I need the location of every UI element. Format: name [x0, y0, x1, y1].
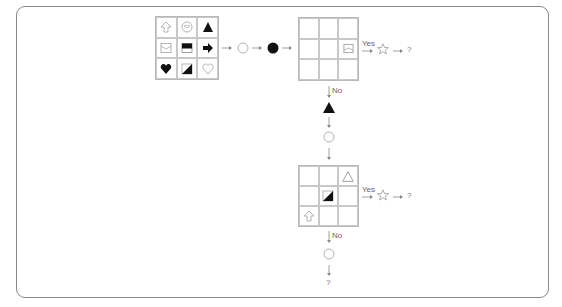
grid-cell	[319, 59, 339, 80]
result-question-mark: ?	[407, 45, 411, 54]
up-arrow-outline-icon	[160, 21, 172, 33]
grid-cell-triangle	[197, 17, 218, 38]
arrow-down-icon	[326, 265, 332, 277]
circle-hollow-icon	[237, 42, 249, 54]
circle-hollow-icon	[323, 248, 335, 260]
grid-cell	[299, 59, 319, 80]
grid-cell-triangle-outline	[338, 166, 358, 186]
grid-cell	[338, 206, 358, 226]
grid-cell-heart-outline	[197, 58, 218, 79]
grid-cell	[299, 39, 319, 60]
grid-2	[298, 165, 359, 227]
circle-hollow-icon	[323, 131, 335, 143]
grid-cell	[299, 18, 319, 39]
grid-cell-up-arrow	[299, 206, 319, 226]
arrow-right-icon	[222, 45, 233, 51]
yes-label: Yes	[362, 40, 375, 48]
grid-cell-clock	[177, 17, 198, 38]
grid-cell-up-arrow	[156, 17, 177, 38]
grid-1	[298, 17, 359, 81]
arrow-down-icon	[326, 117, 332, 129]
grid-cell	[299, 166, 319, 186]
triangle-filled-icon	[323, 102, 335, 113]
grid-cell-right-arrow	[197, 38, 218, 59]
input-grid	[155, 16, 219, 80]
arrow-right-icon	[362, 194, 374, 200]
grid-cell-envelope	[338, 39, 358, 60]
envelope-outline-icon	[160, 42, 172, 54]
no-label: No	[332, 232, 342, 240]
grid-cell-heart-filled	[156, 58, 177, 79]
arrow-down-icon	[326, 148, 332, 161]
grid-cell	[319, 206, 339, 226]
final-question-mark: ?	[326, 278, 330, 287]
grid-cell-bar-rectangle	[177, 38, 198, 59]
yes-label: Yes	[362, 186, 375, 194]
envelope-outline-icon	[343, 43, 354, 54]
star-outline-icon	[377, 43, 389, 55]
heart-filled-icon	[160, 63, 172, 75]
grid-cell	[319, 166, 339, 186]
grid-cell	[299, 186, 319, 206]
grid-cell	[338, 18, 358, 39]
circle-filled-icon	[267, 42, 279, 54]
grid-cell-envelope	[156, 38, 177, 59]
star-outline-icon	[377, 189, 389, 201]
clock-outline-icon	[181, 21, 193, 33]
grid-cell	[319, 18, 339, 39]
result-question-mark: ?	[407, 191, 411, 200]
bar-rectangle-icon	[181, 42, 193, 54]
triangle-filled-icon	[202, 21, 214, 33]
arrow-right-icon	[252, 45, 263, 51]
arrow-right-icon	[393, 194, 404, 200]
heart-outline-icon	[202, 63, 214, 75]
no-label: No	[332, 87, 342, 95]
grid-cell-diagonal-half-square	[319, 186, 339, 206]
grid-cell	[338, 59, 358, 80]
arrow-right-icon	[282, 45, 293, 51]
right-arrow-filled-icon	[202, 42, 214, 54]
grid-cell	[319, 39, 339, 60]
diagonal-half-square-icon	[181, 63, 193, 75]
grid-cell	[338, 186, 358, 206]
diagonal-half-square-icon	[322, 190, 334, 202]
triangle-outline-icon	[342, 171, 354, 182]
arrow-right-icon	[362, 48, 374, 54]
grid-cell-diagonal-half-square	[177, 58, 198, 79]
arrow-right-icon	[393, 48, 404, 54]
up-arrow-outline-icon	[303, 210, 315, 222]
